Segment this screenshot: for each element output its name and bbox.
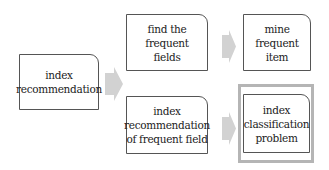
node-index-classification-problem: index classification problem bbox=[243, 94, 310, 153]
node-label: index classification problem bbox=[244, 103, 309, 145]
node-index-recommendation: index recommendation bbox=[19, 54, 99, 110]
node-label: index recommendation of frequent field bbox=[124, 104, 210, 146]
node-label: find the frequent fields bbox=[127, 22, 207, 64]
arrow-right-icon bbox=[222, 112, 236, 145]
arrow-right-icon bbox=[222, 30, 236, 63]
node-label: index recommendation bbox=[16, 68, 102, 96]
node-mine-frequent-item: mine frequent item bbox=[243, 14, 311, 71]
arrow-right-icon bbox=[105, 67, 123, 101]
node-label: mine frequent item bbox=[244, 22, 310, 64]
node-index-recommendation-frequent-field: index recommendation of frequent field bbox=[126, 96, 208, 154]
node-find-frequent-fields: find the frequent fields bbox=[126, 14, 208, 71]
